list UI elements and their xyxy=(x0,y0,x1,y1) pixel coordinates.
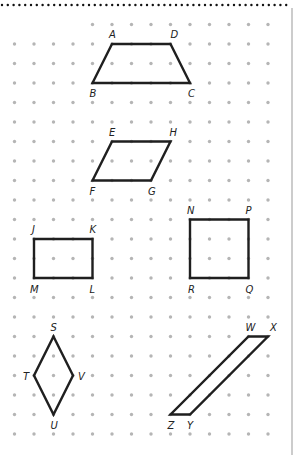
top-border-dot xyxy=(70,4,72,6)
grid-dot xyxy=(266,315,269,318)
grid-dot xyxy=(188,140,191,143)
grid-dot xyxy=(188,179,191,182)
top-border-dot xyxy=(244,4,246,6)
grid-dot xyxy=(149,354,152,357)
grid-dot xyxy=(32,120,35,123)
top-border-dot xyxy=(30,4,32,6)
grid-dot xyxy=(169,62,172,65)
grid-dot xyxy=(52,179,55,182)
grid-dot xyxy=(227,393,230,396)
grid-dot xyxy=(130,237,133,240)
grid-dot xyxy=(91,159,94,162)
grid-dot xyxy=(71,413,74,416)
top-border-dot xyxy=(175,4,177,6)
grid-dot xyxy=(188,120,191,123)
top-border-dot xyxy=(76,4,78,6)
grid-dot xyxy=(149,120,152,123)
grid-dot xyxy=(149,315,152,318)
top-border-dot xyxy=(285,4,287,6)
grid-dot xyxy=(130,374,133,377)
grid-dot xyxy=(130,159,133,162)
top-border-dot xyxy=(134,4,136,6)
grid-dot xyxy=(149,276,152,279)
grid-dot xyxy=(227,335,230,338)
vertex-label-l: L xyxy=(90,284,96,295)
grid-dot xyxy=(32,218,35,221)
grid-dot xyxy=(169,315,172,318)
grid-dot xyxy=(227,296,230,299)
grid-dot xyxy=(247,42,250,45)
grid-dot xyxy=(71,315,74,318)
grid-dot xyxy=(13,140,16,143)
grid-dot xyxy=(266,179,269,182)
grid-dot xyxy=(91,198,94,201)
grid-dot xyxy=(13,218,16,221)
top-border-dot xyxy=(273,4,275,6)
grid-dot xyxy=(52,393,55,396)
grid-dot xyxy=(52,198,55,201)
grid-dot xyxy=(13,179,16,182)
top-border-dot xyxy=(123,4,125,6)
grid-dot xyxy=(13,374,16,377)
grid-dot xyxy=(188,42,191,45)
top-border-dot xyxy=(233,4,235,6)
grid-dot xyxy=(188,354,191,357)
grid-dot xyxy=(110,23,113,26)
grid-dot xyxy=(32,62,35,65)
grid-dot xyxy=(71,42,74,45)
grid-dot xyxy=(130,218,133,221)
grid-dot xyxy=(130,296,133,299)
grid-dot xyxy=(52,101,55,104)
top-border-dot xyxy=(59,4,61,6)
grid-dot xyxy=(149,374,152,377)
vertex-label-p: P xyxy=(246,205,253,216)
grid-dot xyxy=(227,23,230,26)
top-border-dot xyxy=(36,4,38,6)
vertex-label-s: S xyxy=(51,322,58,333)
grid-dot xyxy=(71,296,74,299)
vertex-label-a: A xyxy=(108,29,116,40)
grid-dot xyxy=(247,393,250,396)
grid-dot xyxy=(110,432,113,435)
grid-dot xyxy=(227,413,230,416)
grid-dot xyxy=(91,42,94,45)
top-border-dot xyxy=(18,4,20,6)
grid-dot xyxy=(266,257,269,260)
grid-dot xyxy=(266,276,269,279)
grid-dot xyxy=(52,296,55,299)
vertex-label-g: G xyxy=(148,186,156,197)
vertex-label-y: Y xyxy=(187,420,194,431)
grid-dot xyxy=(208,179,211,182)
grid-dot xyxy=(52,432,55,435)
grid-dot xyxy=(266,81,269,84)
top-border-dot xyxy=(210,4,212,6)
vertex-label-m: M xyxy=(30,284,39,295)
grid-dot xyxy=(13,257,16,260)
grid-dot xyxy=(130,393,133,396)
grid-dot xyxy=(91,335,94,338)
vertex-label-h: H xyxy=(170,127,178,138)
grid-dot xyxy=(247,179,250,182)
grid-dot xyxy=(32,198,35,201)
grid-dot xyxy=(52,140,55,143)
grid-dot xyxy=(247,159,250,162)
grid-dot xyxy=(13,432,16,435)
grid-dot xyxy=(208,62,211,65)
grid-dot xyxy=(188,315,191,318)
grid-dot xyxy=(247,120,250,123)
grid-dot xyxy=(130,23,133,26)
grid-dot xyxy=(91,354,94,357)
grid-dot xyxy=(110,374,113,377)
grid-dot xyxy=(188,432,191,435)
grid-dot xyxy=(247,198,250,201)
top-border-dot xyxy=(65,4,67,6)
top-border-dot xyxy=(99,4,101,6)
grid-dot xyxy=(13,276,16,279)
grid-dot xyxy=(247,23,250,26)
grid-dot xyxy=(91,101,94,104)
top-border-dot xyxy=(7,4,9,6)
grid-dot xyxy=(208,413,211,416)
grid-dot xyxy=(247,81,250,84)
vertex-label-u: U xyxy=(51,420,59,431)
grid-dot xyxy=(169,23,172,26)
